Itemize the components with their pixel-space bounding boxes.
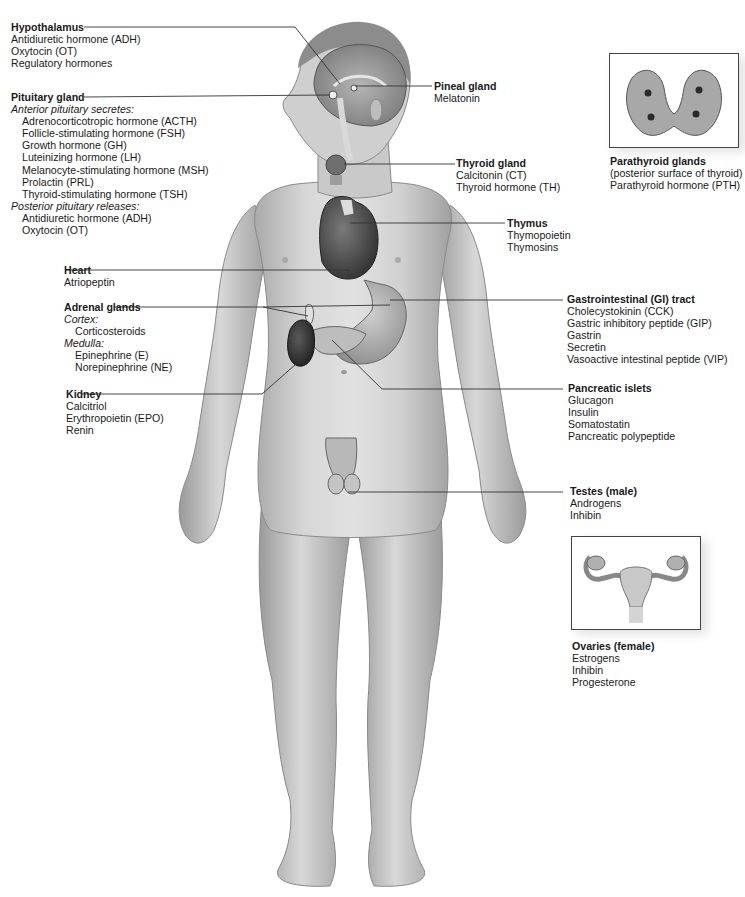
cortex-heading: Cortex:	[64, 313, 172, 325]
left-arm	[179, 205, 270, 543]
hormone-item: Androgens	[570, 497, 637, 509]
hormone-item: Follicle-stimulating hormone (FSH)	[11, 127, 209, 139]
pancreatic-islets-label: Pancreatic islets Glucagon Insulin Somat…	[568, 382, 675, 442]
hormone-item: Luteinizing hormone (LH)	[11, 151, 209, 163]
hormone-item: Atriopeptin	[64, 276, 115, 288]
hormone-item: Antidiuretic hormone (ADH)	[11, 33, 141, 45]
adrenal-glands-label: Adrenal glands Cortex: Corticosteroids M…	[64, 301, 172, 374]
hormone-item: Somatostatin	[568, 418, 675, 430]
hypothalamus-title: Hypothalamus	[11, 21, 141, 33]
heart-label: Heart Atriopeptin	[64, 264, 115, 288]
hormone-item: Thymopoietin	[507, 229, 571, 241]
hormone-item: Regulatory hormones	[11, 57, 141, 69]
hormone-item: Oxytocin (OT)	[11, 45, 141, 57]
hormone-item: Estrogens	[572, 652, 654, 664]
hormone-item: Norepinephrine (NE)	[64, 361, 172, 373]
hormone-item: Gastrin	[567, 329, 728, 341]
hormone-item: Cholecystokinin (CCK)	[567, 305, 728, 317]
hormone-item: Oxytocin (OT)	[11, 224, 209, 236]
gi-tract-label: Gastrointestinal (GI) tract Cholecystoki…	[567, 293, 728, 366]
gi-tract-title: Gastrointestinal (GI) tract	[567, 293, 728, 305]
parathyroid-inset	[609, 53, 739, 148]
thyroid-gland-label: Thyroid gland Calcitonin (CT) Thyroid ho…	[456, 157, 560, 193]
pituitary-title: Pituitary gland	[11, 91, 209, 103]
heart-title: Heart	[64, 264, 115, 276]
thyroid-gland-marker	[326, 155, 346, 175]
thyroid-title: Thyroid gland	[456, 157, 560, 169]
pituitary-gland-marker	[329, 91, 337, 99]
hormone-item: Renin	[66, 424, 164, 436]
hormone-item: Glucagon	[568, 394, 675, 406]
hormone-item: Vasoactive intestinal peptide (VIP)	[567, 353, 728, 365]
ovaries-title: Ovaries (female)	[572, 640, 654, 652]
thymus-label: Thymus Thymopoietin Thymosins	[507, 217, 571, 253]
ovaries-label: Ovaries (female) Estrogens Inhibin Proge…	[572, 640, 654, 688]
hormone-item: Calcitriol	[66, 400, 164, 412]
hormone-item: Thyroid-stimulating hormone (TSH)	[11, 188, 209, 200]
hormone-item: Melatonin	[434, 92, 496, 104]
right-leg	[356, 500, 442, 886]
uterus-ovaries-illustration	[572, 537, 700, 629]
testes-title: Testes (male)	[570, 485, 637, 497]
ovaries-inset	[571, 536, 701, 630]
hormone-item: Prolactin (PRL)	[11, 176, 209, 188]
parathyroid-glands-label: Parathyroid glands (posterior surface of…	[610, 155, 742, 191]
pancreas-title: Pancreatic islets	[568, 382, 675, 394]
hormone-item: Calcitonin (CT)	[456, 169, 560, 181]
hormone-item: Corticosteroids	[64, 325, 172, 337]
posterior-pituitary-heading: Posterior pituitary releases:	[11, 200, 209, 212]
pineal-title: Pineal gland	[434, 80, 496, 92]
hormone-item: Progesterone	[572, 676, 654, 688]
testes-label: Testes (male) Androgens Inhibin	[570, 485, 637, 521]
testes-marker	[328, 474, 344, 494]
parathyroid-note: (posterior surface of thyroid)	[610, 167, 742, 179]
anterior-pituitary-heading: Anterior pituitary secretes:	[11, 103, 209, 115]
hormone-item: Parathyroid hormone (PTH)	[610, 179, 742, 191]
hormone-item: Antidiuretic hormone (ADH)	[11, 212, 209, 224]
hormone-item: Insulin	[568, 406, 675, 418]
endocrine-system-figure: Hypothalamus Antidiuretic hormone (ADH) …	[0, 0, 745, 897]
hypothalamus-label: Hypothalamus Antidiuretic hormone (ADH) …	[11, 21, 141, 69]
pineal-gland-label: Pineal gland Melatonin	[434, 80, 496, 104]
hormone-item: Epinephrine (E)	[64, 349, 172, 361]
hormone-item: Inhibin	[572, 664, 654, 676]
kidney-label: Kidney Calcitriol Erythropoietin (EPO) R…	[66, 388, 164, 436]
hormone-item: Erythropoietin (EPO)	[66, 412, 164, 424]
kidney-title: Kidney	[66, 388, 164, 400]
thymus-title: Thymus	[507, 217, 571, 229]
kidney-organ	[288, 320, 315, 366]
hormone-item: Thyroid hormone (TH)	[456, 181, 560, 193]
parathyroid-illustration	[610, 54, 738, 147]
parathyroid-title: Parathyroid glands	[610, 155, 742, 167]
hormone-item: Thymosins	[507, 241, 571, 253]
hormone-item: Secretin	[567, 341, 728, 353]
hormone-item: Growth hormone (GH)	[11, 139, 209, 151]
adrenal-title: Adrenal glands	[64, 301, 172, 313]
hormone-item: Inhibin	[570, 509, 637, 521]
hormone-item: Melanocyte-stimulating hormone (MSH)	[11, 164, 209, 176]
hormone-item: Pancreatic polypeptide	[568, 430, 675, 442]
pituitary-gland-label: Pituitary gland Anterior pituitary secre…	[11, 91, 209, 236]
hormone-item: Gastric inhibitory peptide (GIP)	[567, 317, 728, 329]
medulla-heading: Medulla:	[64, 337, 172, 349]
hormone-item: Adrenocorticotropic hormone (ACTH)	[11, 115, 209, 127]
left-leg	[259, 500, 352, 886]
